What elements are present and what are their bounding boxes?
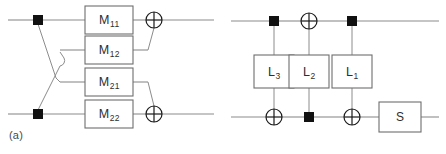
feed-line-m12-to-top-target [148, 28, 154, 50]
gate-label-l2: L2 [303, 66, 315, 79]
gate-label-l3: L3 [268, 66, 280, 79]
gate-label-m11: M11 [99, 14, 119, 27]
bottom-xor-target-1[interactable] [266, 109, 282, 125]
top-square-control-2[interactable] [347, 16, 357, 26]
panel-caption-a: (a) [9, 129, 23, 141]
crossover-line-down [38, 24, 56, 78]
panel-b: L3 L2 L1 S (b) [223, 0, 446, 154]
gate-label-m22: M22 [99, 108, 119, 121]
bottom-square-control[interactable] [304, 112, 314, 122]
panel-a: M11 M12 M21 M22 (a) [0, 0, 223, 154]
xor-target-top[interactable] [146, 12, 162, 28]
xor-target-bottom[interactable] [146, 106, 162, 122]
top-xor-target[interactable] [301, 13, 317, 29]
gate-label-l1: L1 [346, 66, 358, 79]
feed-line-m21-to-bottom-target [148, 82, 154, 106]
crossover-join-wire-3 [56, 78, 60, 82]
wire-hop-arc [60, 58, 65, 66]
gate-label-m21: M21 [99, 76, 119, 89]
top-square-control-1[interactable] [269, 16, 279, 26]
gate-label-m12: M12 [99, 44, 119, 57]
crossover-line-up-lower [38, 66, 60, 110]
panel-b-circuit [223, 0, 446, 154]
quantum-circuit-figure: M11 M12 M21 M22 (a) [0, 0, 446, 154]
bottom-xor-target-2[interactable] [344, 109, 360, 125]
gate-label-s: S [396, 111, 404, 123]
crossover-line-up-upper [60, 52, 64, 58]
square-control-bottom[interactable] [33, 109, 43, 119]
square-control-top[interactable] [33, 15, 43, 25]
